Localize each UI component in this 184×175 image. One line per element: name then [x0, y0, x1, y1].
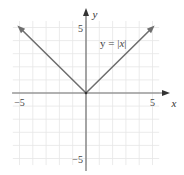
- x-axis-arrow-icon: [162, 90, 170, 96]
- abs-value-graph: −555−5xyy = |x|: [0, 0, 184, 175]
- y-axis-arrow-icon: [83, 8, 89, 16]
- y-tick-label: 5: [78, 23, 83, 34]
- origin-point: [85, 92, 88, 95]
- y-axis-label: y: [92, 8, 98, 20]
- x-axis-label: x: [171, 97, 177, 109]
- axes: [12, 8, 170, 171]
- equation-label: y = |x|: [100, 37, 127, 49]
- x-tick-label: −5: [14, 97, 25, 108]
- y-tick-label: −5: [72, 154, 83, 165]
- x-tick-label: 5: [150, 97, 155, 108]
